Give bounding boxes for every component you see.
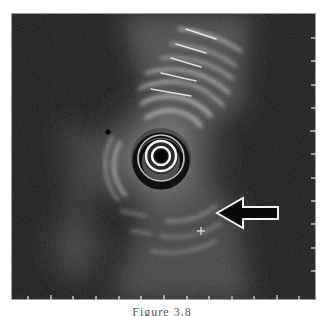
- ultrasound-image: [11, 13, 316, 300]
- figure-caption-text: Figure 3.8: [132, 305, 191, 316]
- transducer-rings: [131, 128, 191, 188]
- figure-caption: Figure 3.8: [0, 302, 324, 316]
